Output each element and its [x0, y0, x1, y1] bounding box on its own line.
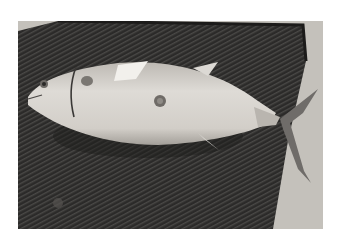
wound-near-gill: [81, 76, 93, 86]
fish-photo-canvas: [18, 21, 323, 229]
wound-center-inner: [157, 98, 163, 104]
fish-pupil: [42, 82, 46, 86]
fish-photo: [18, 21, 323, 229]
mat-spot: [53, 198, 63, 208]
